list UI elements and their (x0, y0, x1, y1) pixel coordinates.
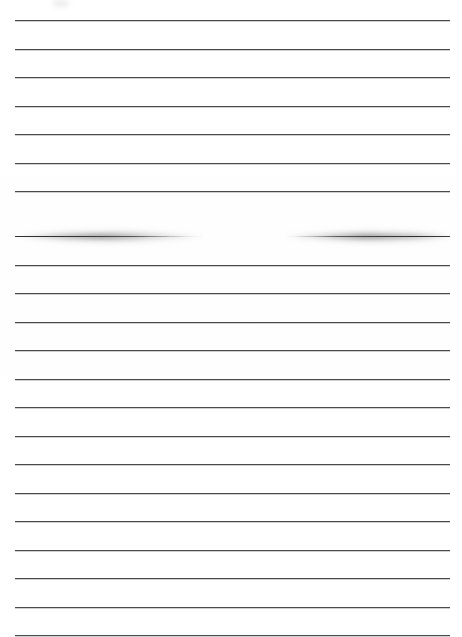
rule-line (15, 407, 450, 408)
rule-line (15, 350, 450, 351)
rule-line (15, 436, 450, 437)
scanned-page (0, 0, 462, 637)
rule-line (15, 493, 450, 494)
rule-line (15, 550, 450, 551)
rule-line (15, 464, 450, 465)
rule-line (15, 265, 450, 266)
scan-edge-artifact-icon (52, 0, 70, 7)
rule-line (15, 293, 450, 294)
rule-line (15, 20, 450, 21)
rule-line (15, 163, 450, 164)
rule-line (15, 578, 450, 579)
rule-line (15, 379, 450, 380)
rule-line (15, 607, 450, 608)
rule-line (15, 635, 450, 636)
rule-line (15, 106, 450, 107)
smudge-core-left (15, 236, 205, 237)
rule-line (15, 322, 450, 323)
rule-line (15, 77, 450, 78)
rule-line (15, 49, 450, 50)
rule-line (15, 191, 450, 192)
smudge-core-right (282, 236, 450, 237)
smudged-rule-line (15, 236, 450, 237)
paper-texture (0, 0, 462, 637)
rule-line (15, 134, 450, 135)
rule-line (15, 521, 450, 522)
